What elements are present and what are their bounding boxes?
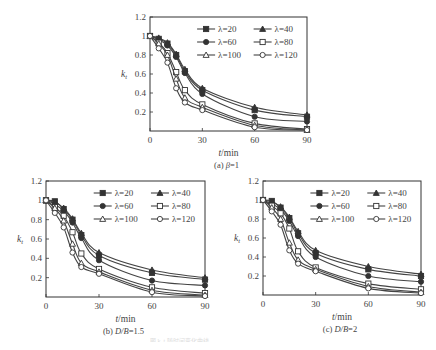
y-tick-label: 0.4 <box>135 88 147 98</box>
data-point-marker <box>296 261 301 266</box>
legend-label: λ=40 <box>275 24 294 34</box>
legend: λ=20λ=40λ=60λ=80λ=100λ=120 <box>94 188 196 224</box>
data-point-marker <box>418 291 423 296</box>
legend-label: λ=100 <box>115 214 138 224</box>
data-point-marker <box>147 33 152 38</box>
legend-label: λ=120 <box>388 214 411 224</box>
data-point-marker <box>287 218 292 223</box>
data-point-marker <box>269 209 274 214</box>
data-point-marker <box>252 114 257 119</box>
data-point-marker <box>156 46 161 51</box>
legend-marker <box>317 203 322 208</box>
legend-label: λ=120 <box>172 214 195 224</box>
x-tick-label: 90 <box>417 299 427 309</box>
data-point-marker <box>61 225 66 230</box>
data-point-marker <box>52 210 57 215</box>
legend-label: λ=120 <box>275 50 298 60</box>
y-axis-label: kt <box>121 69 127 80</box>
legend-marker <box>157 216 162 221</box>
data-point-marker <box>366 286 371 291</box>
legend-label: λ=80 <box>388 201 407 211</box>
legend-label: λ=60 <box>115 201 134 211</box>
x-axis-label: t/min <box>115 314 135 324</box>
data-point-marker <box>70 230 75 235</box>
y-tick-label: 1 <box>38 195 43 205</box>
data-point-marker <box>313 247 319 252</box>
series-line-lambda-20 <box>46 200 205 279</box>
y-tick-label: 0.4 <box>31 253 43 263</box>
y-tick-label: 0.6 <box>135 69 147 79</box>
legend-label: λ=20 <box>115 188 134 198</box>
data-point-marker <box>149 278 154 283</box>
x-tick-label: 90 <box>201 301 211 311</box>
data-point-marker <box>313 269 318 274</box>
data-point-marker <box>304 119 309 124</box>
data-point-marker <box>202 283 207 288</box>
data-point-marker <box>287 248 292 253</box>
x-axis-label: t/min <box>332 312 352 322</box>
legend-label: λ=80 <box>172 201 191 211</box>
y-axis-label: kt <box>17 234 23 245</box>
data-point-marker <box>252 125 257 130</box>
legend-label: λ=20 <box>218 24 237 34</box>
data-point-marker <box>296 234 301 239</box>
legend: λ=20λ=40λ=60λ=80λ=100λ=120 <box>197 24 298 60</box>
y-tick-label: 0.4 <box>248 252 260 262</box>
y-tick-label: 0.8 <box>248 214 260 224</box>
plot-frame <box>263 181 421 295</box>
y-tick-label: 0.2 <box>248 271 259 281</box>
data-point-marker <box>200 91 205 96</box>
data-point-marker <box>366 273 371 278</box>
data-point-marker <box>165 60 170 65</box>
data-point-marker <box>70 250 75 255</box>
x-tick-label: 0 <box>148 135 153 145</box>
data-point-marker <box>182 100 187 105</box>
subplot-caption: (c) D/B=2 <box>323 324 357 334</box>
series-line-lambda-40 <box>150 36 307 115</box>
series-line-lambda-60 <box>263 200 421 282</box>
x-tick-label: 60 <box>148 301 158 311</box>
y-tick-label: 1.2 <box>135 12 146 22</box>
y-tick-label: 0.2 <box>31 273 42 283</box>
legend-marker <box>100 190 105 195</box>
y-tick-label: 0.6 <box>248 233 260 243</box>
series-line-lambda-20 <box>263 200 421 276</box>
data-point-marker <box>96 271 101 276</box>
legend-label: λ=100 <box>218 50 241 60</box>
y-tick-label: 1.2 <box>31 176 42 186</box>
legend-marker <box>260 39 265 44</box>
y-tick-label: 1 <box>142 31 147 41</box>
legend-label: λ=20 <box>331 188 350 198</box>
y-axis-label: kt <box>234 233 240 244</box>
y-tick-label: 1.2 <box>248 176 259 186</box>
data-point-marker <box>182 88 187 93</box>
y-tick-label: 0.6 <box>31 234 43 244</box>
legend-label: λ=40 <box>388 188 407 198</box>
legend: λ=20λ=40λ=60λ=80λ=100λ=120 <box>310 188 411 224</box>
data-point-marker <box>174 86 179 91</box>
chart-b-db-1-5: 0.20.40.60.811.20306090t/minkt(b) D/B=1.… <box>17 176 210 336</box>
legend-marker <box>317 190 322 195</box>
data-point-marker <box>70 220 75 225</box>
legend-label: λ=100 <box>331 214 354 224</box>
x-tick-label: 0 <box>261 299 266 309</box>
subplot-caption: (a) β=1 <box>214 160 239 170</box>
legend-marker <box>100 203 105 208</box>
x-tick-label: 60 <box>250 135 260 145</box>
data-point-marker <box>174 54 179 59</box>
x-axis-label: t/min <box>218 148 238 158</box>
data-point-marker <box>296 249 301 254</box>
x-tick-label: 30 <box>198 135 208 145</box>
data-point-marker <box>43 198 48 203</box>
x-tick-label: 30 <box>95 301 105 311</box>
data-point-marker <box>202 293 207 298</box>
x-tick-label: 30 <box>311 299 321 309</box>
data-point-marker <box>149 290 154 295</box>
legend-label: λ=40 <box>172 188 191 198</box>
x-tick-label: 0 <box>44 301 49 311</box>
legend-marker <box>204 39 209 44</box>
x-tick-label: 90 <box>303 135 313 145</box>
data-point-marker <box>96 258 101 263</box>
subplot-caption: (b) D/B=1.5 <box>103 326 144 336</box>
data-point-marker <box>418 279 423 284</box>
